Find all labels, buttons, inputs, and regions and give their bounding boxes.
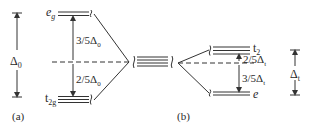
e-label: e [253, 87, 259, 101]
degenerate-d-level-lines [133, 56, 173, 68]
diagram-canvas: Δ0 eg t2g 3/5Δ0 2/5Δ0 (a) t2 e 2/5Δt 3/5… [0, 0, 311, 132]
eg-label: eg [46, 5, 55, 21]
crystal-field-splitting-diagram: Δ0 eg t2g 3/5Δ0 2/5Δ0 (a) t2 e 2/5Δt 3/5… [0, 0, 311, 132]
t2g-level-lines [58, 95, 92, 105]
panel-label-b: (b) [177, 110, 190, 123]
upper-gap-label-left: 3/5Δ0 [76, 34, 101, 49]
eg-level-lines [58, 10, 92, 17]
lower-gap-label-left: 2/5Δ0 [76, 73, 101, 88]
lower-gap-label-right: 3/5Δt [242, 72, 265, 87]
t2g-label: t2g [45, 91, 56, 107]
delta0-label: Δ0 [10, 54, 22, 70]
e-level-lines [209, 90, 250, 97]
panel-label-a: (a) [12, 110, 25, 123]
delta-t-label: Δt [290, 67, 301, 83]
upper-gap-label-right: 2/5Δt [243, 53, 266, 68]
